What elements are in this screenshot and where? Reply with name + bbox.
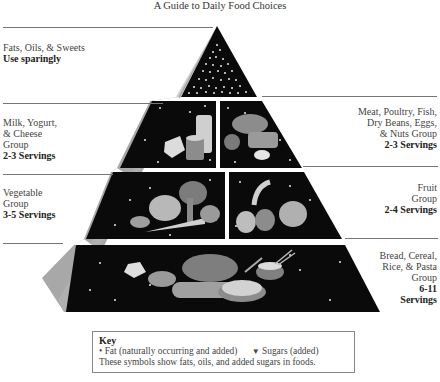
sugar-label: Sugars (added) xyxy=(262,346,319,356)
rule-fats xyxy=(3,27,213,28)
label-fruit: Fruit Group 2-4 Servings xyxy=(317,182,437,215)
label-milk: Milk, Yogurt, & Cheese Group 2-3 Serving… xyxy=(3,117,57,161)
servings-bread-unit: Servings xyxy=(337,294,437,305)
rule-fruit xyxy=(303,166,438,167)
servings-fats: Use sparingly xyxy=(3,53,85,64)
label-vegetable: Vegetable Group 3-5 Servings xyxy=(3,187,56,220)
label-meat: Meat, Poultry, Fish, Dry Beans, Eggs, & … xyxy=(287,106,437,150)
servings-bread: 6-11 xyxy=(337,283,437,294)
servings-vegetable: 3-5 Servings xyxy=(3,209,56,220)
rule-meat xyxy=(262,96,437,97)
label-bread: Bread, Cereal, Rice, & Pasta Group 6-11 … xyxy=(337,250,437,305)
rule-bread-right xyxy=(345,238,438,239)
fat-dot-icon: • xyxy=(99,346,102,356)
servings-milk: 2-3 Servings xyxy=(3,150,57,161)
rule-bread xyxy=(3,243,63,244)
key-note: These symbols show fats, oils, and added… xyxy=(99,357,348,368)
rule-vegetable xyxy=(3,174,113,175)
tier-fats xyxy=(181,26,257,97)
rule-milk xyxy=(3,103,163,104)
key-title: Key xyxy=(99,335,348,346)
legend-key-box: Key • Fat (naturally occurring and added… xyxy=(92,331,355,373)
servings-meat: 2-3 Servings xyxy=(287,139,437,150)
key-symbols-row: • Fat (naturally occurring and added) ▼ … xyxy=(99,346,348,357)
sugar-triangle-icon: ▼ xyxy=(252,347,260,356)
fat-label: Fat (naturally occurring and added) xyxy=(105,346,238,356)
servings-fruit: 2-4 Servings xyxy=(317,204,437,215)
label-fats: Fats, Oils, & Sweets Use sparingly xyxy=(3,42,85,64)
